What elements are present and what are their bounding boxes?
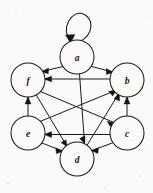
- arrowhead-e-to-f: [25, 96, 31, 104]
- speck: [105, 188, 106, 189]
- speck: [16, 10, 17, 11]
- node-d-label: d: [75, 155, 80, 165]
- node-c[interactable]: c: [110, 116, 144, 150]
- speck: [140, 176, 141, 177]
- speck: [146, 16, 147, 17]
- arrowhead-c-to-b: [124, 96, 130, 104]
- directed-graph-svg: a b c d e f: [0, 0, 153, 193]
- speck: [8, 183, 9, 184]
- figure-canvas: a b c d e f: [0, 0, 153, 193]
- node-a[interactable]: a: [60, 40, 94, 74]
- node-b[interactable]: b: [110, 63, 144, 97]
- node-b-label: b: [125, 76, 130, 86]
- node-d[interactable]: d: [60, 142, 94, 176]
- node-f[interactable]: f: [11, 63, 45, 97]
- node-layer: a b c d e f: [11, 40, 144, 176]
- node-e[interactable]: e: [11, 116, 45, 150]
- node-a-label: a: [75, 53, 80, 63]
